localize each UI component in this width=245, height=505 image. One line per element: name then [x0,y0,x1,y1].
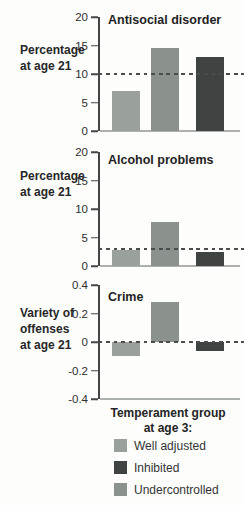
y-tick-mark [91,180,98,182]
y-tick-label: 0 [82,336,88,348]
bar-well-adjusted [112,342,140,356]
y-tick-label: -0.2 [68,365,88,377]
y-tick-mark [91,370,98,372]
y-tick-mark [91,398,98,400]
legend-item-inhibited: Inhibited [114,461,219,474]
chart-title: Crime [108,290,143,304]
legend-item-label: Inhibited [134,461,179,475]
legend-title: Temperament group at age 3: [90,406,245,436]
x-axis-line [100,398,240,401]
y-tick-label: 0.4 [72,279,88,291]
legend-item-label: Undercontrolled [134,483,219,497]
reference-line [99,248,244,250]
y-axis-label-line: at age 21 [20,337,74,353]
bar-undercontrolled [151,222,179,266]
bar-inhibited [196,342,224,351]
y-tick-mark [91,151,98,153]
chart-crime: Variety ofoffensesat age 21 Crime 0.40.2… [0,278,245,403]
plot-area: Antisocial disorder 20151050 [98,17,240,131]
y-tick-mark [91,73,98,75]
y-tick-mark [91,341,98,343]
y-tick-label: 0 [82,260,88,272]
chart-alcohol-problems: Percentageat age 21 Alcohol problems 201… [0,145,245,278]
chart-title: Alcohol problems [108,153,214,167]
chart-antisocial-disorder: Percentageat age 21 Antisocial disorder … [0,0,245,145]
y-tick-mark [91,237,98,239]
y-axis-label-line: offenses [20,321,74,337]
reference-line [99,341,244,343]
y-tick-mark [91,284,98,286]
y-tick-mark [91,102,98,104]
well-adjusted-swatch-icon [114,439,127,452]
bar-well-adjusted [112,91,140,131]
y-tick-mark [91,130,98,132]
y-axis-label: Variety ofoffensesat age 21 [20,305,74,353]
y-tick-mark [91,313,98,315]
y-axis-label-line: Variety of [20,305,74,321]
legend-item-well-adjusted: Well adjusted [114,439,219,452]
y-tick-label: 0 [82,125,88,137]
legend-item-undercontrolled: Undercontrolled [114,483,219,496]
plot-area: Alcohol problems 20151050 [98,152,240,266]
y-tick-label: 20 [75,146,88,158]
bar-undercontrolled [151,302,179,342]
reference-line [99,73,244,75]
y-tick-label: 5 [82,97,88,109]
y-tick-label: 0.2 [72,308,88,320]
legend-items: Well adjusted Inhibited Undercontrolled [114,439,219,505]
bar-inhibited [196,252,224,266]
legend: Temperament group at age 3: Well adjuste… [0,403,245,505]
y-tick-label: 20 [75,11,88,23]
undercontrolled-swatch-icon [114,483,127,496]
bar-well-adjusted [112,250,140,266]
temperament-outcomes-figure: Percentageat age 21 Antisocial disorder … [0,0,245,505]
y-tick-mark [91,16,98,18]
plot-area: Crime 0.40.20-0.2-0.4 [98,285,240,399]
chart-title: Antisocial disorder [108,13,221,27]
legend-title-line: at age 3: [90,421,245,436]
bar-undercontrolled [151,48,179,131]
legend-item-label: Well adjusted [134,439,206,453]
y-tick-label: 15 [75,175,88,187]
y-tick-label: 10 [75,68,88,80]
y-tick-label: 10 [75,203,88,215]
y-tick-mark [91,45,98,47]
inhibited-swatch-icon [114,461,127,474]
y-tick-label: 5 [82,232,88,244]
legend-title-line: Temperament group [90,406,245,421]
y-tick-mark [91,208,98,210]
y-tick-mark [91,265,98,267]
bar-inhibited [196,57,224,131]
y-tick-label: 15 [75,40,88,52]
